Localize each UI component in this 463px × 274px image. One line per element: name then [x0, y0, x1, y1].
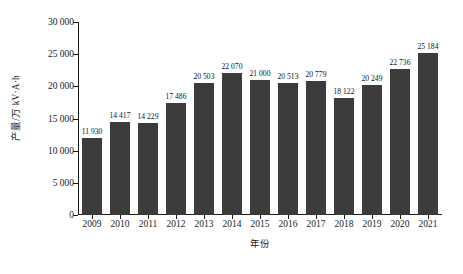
bar[interactable] — [278, 83, 298, 215]
bar-slot: 18 122 — [330, 22, 358, 215]
bar[interactable] — [390, 69, 410, 215]
bar[interactable] — [250, 80, 270, 215]
x-axis-tick-label: 2017 — [307, 219, 326, 229]
bar[interactable] — [194, 83, 214, 215]
bar-value-label: 18 122 — [334, 87, 355, 96]
bar-value-label: 17 486 — [166, 92, 187, 101]
bar[interactable] — [82, 138, 102, 215]
bar[interactable] — [166, 103, 186, 215]
bar-slot: 17 486 — [162, 22, 190, 215]
y-axis-tick-label: 20 000 — [22, 81, 74, 91]
bar-slot: 20 779 — [302, 22, 330, 215]
x-axis-tick-label: 2019 — [363, 219, 382, 229]
bar-slot: 22 070 — [218, 22, 246, 215]
bar-value-label: 20 249 — [362, 74, 383, 83]
y-axis-tick-label: 10 000 — [22, 146, 74, 156]
bar-slot: 20 503 — [190, 22, 218, 215]
bar[interactable] — [418, 53, 438, 215]
bar[interactable] — [222, 73, 242, 215]
bar[interactable] — [110, 122, 130, 215]
y-axis-title-text: 产量/万 kV·A·h — [8, 75, 22, 141]
x-axis-tick-label: 2016 — [279, 219, 298, 229]
x-axis-title: 年份 — [78, 236, 442, 250]
bar-slot: 20 249 — [358, 22, 386, 215]
bar-series: 11 93014 41714 22917 48620 50322 07021 0… — [78, 22, 442, 215]
bar[interactable] — [334, 98, 354, 215]
bar-slot: 25 184 — [414, 22, 442, 215]
bar-slot: 14 229 — [134, 22, 162, 215]
x-axis-tick-label: 2018 — [335, 219, 354, 229]
x-axis-tick-label: 2015 — [251, 219, 270, 229]
bar-slot: 11 930 — [78, 22, 106, 215]
y-axis-tick-label: 30 000 — [22, 17, 74, 27]
bar-slot: 20 513 — [274, 22, 302, 215]
bar-value-label: 20 503 — [194, 72, 215, 81]
bar-value-label: 22 070 — [222, 62, 243, 71]
x-axis-tick-labels: 2009201020112012201320142015201620172018… — [78, 219, 442, 235]
bar[interactable] — [362, 85, 382, 215]
bar-chart-figure: 产量/万 kV·A·h 05 00010 00015 00020 00025 0… — [0, 0, 463, 274]
x-axis-tick-label: 2012 — [167, 219, 186, 229]
bar-slot: 22 736 — [386, 22, 414, 215]
bar-value-label: 25 184 — [418, 42, 439, 51]
bar-slot: 14 417 — [106, 22, 134, 215]
bar-value-label: 14 417 — [110, 111, 131, 120]
bar[interactable] — [306, 81, 326, 215]
bar-value-label: 22 736 — [390, 58, 411, 67]
x-axis-tick-label: 2013 — [195, 219, 214, 229]
x-axis-tick-label: 2009 — [83, 219, 102, 229]
x-axis-tick-label: 2014 — [223, 219, 242, 229]
bar-value-label: 14 229 — [138, 112, 159, 121]
x-axis-tick-label: 2010 — [111, 219, 130, 229]
bar-slot: 21 000 — [246, 22, 274, 215]
y-axis-tick-label: 0 — [22, 210, 74, 220]
y-axis-tick-labels: 05 00010 00015 00020 00025 00030 000 — [22, 0, 74, 230]
bar-value-label: 11 930 — [82, 127, 103, 136]
y-axis-tick-label: 5 000 — [22, 178, 74, 188]
y-axis-tick — [73, 215, 78, 216]
bar[interactable] — [138, 123, 158, 215]
x-axis-tick-label: 2020 — [391, 219, 410, 229]
y-axis-tick-label: 25 000 — [22, 49, 74, 59]
bar-value-label: 21 000 — [250, 69, 271, 78]
y-axis-tick-label: 15 000 — [22, 114, 74, 124]
x-axis-tick-label: 2011 — [139, 219, 158, 229]
x-axis-tick-label: 2021 — [419, 219, 438, 229]
plot-area: 11 93014 41714 22917 48620 50322 07021 0… — [78, 22, 442, 215]
bar-value-label: 20 513 — [278, 72, 299, 81]
bar-value-label: 20 779 — [306, 70, 327, 79]
